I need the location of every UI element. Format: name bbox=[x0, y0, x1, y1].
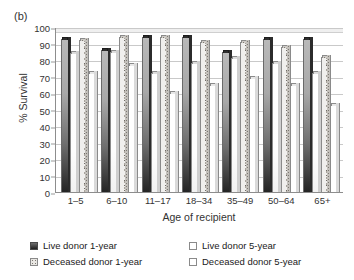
legend-swatch-icon bbox=[189, 242, 197, 250]
y-axis-tick-label: 80 bbox=[39, 56, 50, 67]
x-axis-title: Age of recipient bbox=[55, 211, 343, 223]
legend-item[interactable]: Live donor 5-year bbox=[189, 240, 340, 251]
x-axis-tick-label: 50–64 bbox=[261, 195, 302, 206]
y-axis-tick-label: 50 bbox=[39, 105, 50, 116]
x-axis-tick-label: 11–17 bbox=[137, 195, 178, 206]
bar-side-face bbox=[296, 83, 300, 192]
x-axis-tick-label: 65+ bbox=[302, 195, 343, 206]
bar-group bbox=[220, 28, 260, 192]
bar[interactable] bbox=[160, 37, 168, 192]
bar[interactable] bbox=[119, 37, 127, 192]
bar[interactable] bbox=[151, 73, 159, 192]
y-axis-tick-label: 100 bbox=[34, 23, 50, 34]
legend-swatch-icon bbox=[30, 258, 38, 266]
x-axis-tick-label: 6–10 bbox=[96, 195, 137, 206]
y-axis-ticks: 1009080706050403020100 bbox=[20, 28, 50, 193]
bar[interactable] bbox=[169, 93, 177, 192]
bar[interactable] bbox=[142, 37, 150, 192]
bar[interactable] bbox=[249, 78, 257, 192]
bar[interactable] bbox=[222, 52, 230, 192]
legend-item[interactable]: Deceased donor 5-year bbox=[189, 256, 340, 267]
bar[interactable] bbox=[290, 85, 298, 192]
x-axis-tick-label: 35–49 bbox=[220, 195, 261, 206]
y-axis-tick-label: 20 bbox=[39, 155, 50, 166]
bar[interactable] bbox=[321, 57, 329, 192]
bar[interactable] bbox=[200, 42, 208, 192]
bar-side-face bbox=[134, 63, 138, 192]
x-axis-tick-label: 1–5 bbox=[55, 195, 96, 206]
x-axis-tick-label: 18–34 bbox=[178, 195, 219, 206]
bar[interactable] bbox=[79, 40, 87, 192]
bar[interactable] bbox=[70, 53, 78, 192]
bar[interactable] bbox=[191, 63, 199, 192]
legend-item-label: Deceased donor 5-year bbox=[202, 256, 301, 267]
y-axis-tick-label: 0 bbox=[45, 188, 50, 199]
bar[interactable] bbox=[128, 65, 136, 192]
legend-item[interactable]: Deceased donor 1-year bbox=[30, 256, 181, 267]
y-axis-tick-label: 90 bbox=[39, 39, 50, 50]
bar-group bbox=[260, 28, 300, 192]
bar[interactable] bbox=[281, 47, 289, 192]
bar-group bbox=[58, 28, 98, 192]
bar-group bbox=[179, 28, 219, 192]
y-axis-tick-mark bbox=[51, 193, 55, 194]
y-axis-tick-label: 10 bbox=[39, 171, 50, 182]
bar[interactable] bbox=[272, 63, 280, 192]
legend-swatch-icon bbox=[30, 242, 38, 250]
bar[interactable] bbox=[101, 50, 109, 192]
bar[interactable] bbox=[303, 39, 311, 192]
bar-group bbox=[301, 28, 341, 192]
y-axis-tick-label: 30 bbox=[39, 138, 50, 149]
bar[interactable] bbox=[61, 39, 69, 192]
bar[interactable] bbox=[240, 42, 248, 192]
bar-groups bbox=[56, 28, 343, 192]
bar-group bbox=[98, 28, 138, 192]
bar-side-face bbox=[94, 71, 98, 192]
survival-bar-chart: % Survival 1009080706050403020100 1–56–1… bbox=[0, 0, 354, 280]
bar-group bbox=[139, 28, 179, 192]
bar-side-face bbox=[336, 103, 340, 192]
y-axis-tick-label: 60 bbox=[39, 89, 50, 100]
bar[interactable] bbox=[330, 105, 338, 192]
bar[interactable] bbox=[263, 39, 271, 192]
legend-item[interactable]: Live donor 1-year bbox=[30, 240, 181, 251]
y-axis-tick-label: 70 bbox=[39, 72, 50, 83]
bar-side-face bbox=[255, 76, 259, 192]
legend-item-label: Deceased donor 1-year bbox=[43, 256, 142, 267]
legend-item-label: Live donor 5-year bbox=[202, 240, 276, 251]
bar[interactable] bbox=[209, 85, 217, 192]
x-axis-ticks: 1–56–1011–1718–3435–4950–6465+ bbox=[55, 195, 343, 206]
chart-legend: Live donor 1-yearLive donor 5-yearDeceas… bbox=[30, 240, 340, 267]
y-axis-tick-label: 40 bbox=[39, 122, 50, 133]
bar[interactable] bbox=[110, 52, 118, 192]
bar[interactable] bbox=[182, 37, 190, 192]
bar-side-face bbox=[215, 83, 219, 192]
bar[interactable] bbox=[231, 58, 239, 192]
legend-item-label: Live donor 1-year bbox=[43, 240, 117, 251]
bar[interactable] bbox=[312, 73, 320, 192]
legend-swatch-icon bbox=[189, 258, 197, 266]
bar[interactable] bbox=[88, 73, 96, 192]
bar-side-face bbox=[175, 91, 179, 192]
plot-area bbox=[55, 28, 343, 193]
